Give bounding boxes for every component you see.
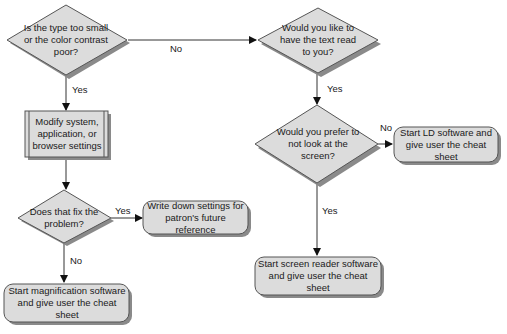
edge-label-q1-no: No [170, 43, 182, 54]
terminal-write-down-text: Write down settings for patron's future … [145, 202, 246, 233]
decision-type-small-text: Is the type too small or the color contr… [22, 22, 110, 58]
decision-not-look-text: Would you prefer to not look at the scre… [276, 126, 360, 162]
terminal-start-screen-reader-text: Start screen reader software and give us… [257, 259, 379, 293]
edge-label-q2-yes: Yes [115, 205, 131, 216]
edge-label-q1-yes: Yes [72, 84, 88, 95]
process-modify-settings-text: Modify system, application, or browser s… [30, 112, 104, 156]
edge-label-q4-yes: Yes [322, 205, 338, 216]
decision-fix-problem-text: Does that fix the problem? [26, 206, 102, 230]
terminal-start-ld-text: Start LD software and give user the chea… [396, 129, 496, 160]
edge-label-q4-no: No [380, 122, 392, 133]
terminal-start-magnification-text: Start magnification software and give us… [7, 286, 127, 320]
decision-read-to-you-text: Would you like to have the text read to … [276, 22, 360, 58]
edge-label-q3-yes: Yes [327, 83, 343, 94]
edge-label-q2-no: No [70, 255, 82, 266]
